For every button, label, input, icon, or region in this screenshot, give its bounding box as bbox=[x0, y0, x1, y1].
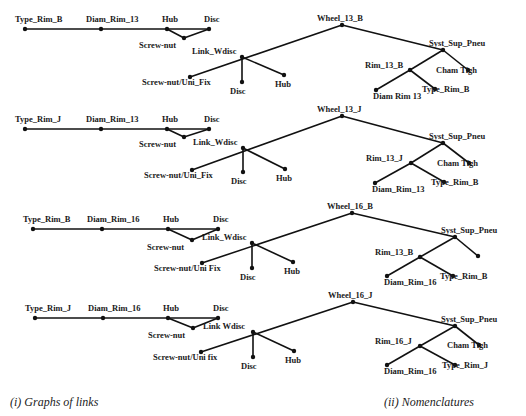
chain-label-hub: Hub bbox=[162, 14, 178, 24]
screw-nut-uni-fix-label: Screw-nut/Uni_Fix bbox=[142, 77, 212, 87]
nomenclature-node bbox=[340, 114, 344, 118]
nomenclature-node bbox=[409, 161, 413, 165]
chain-node bbox=[207, 27, 211, 31]
link-hub-edge bbox=[243, 148, 285, 169]
chain-label-type-rim: Type_Rim_J bbox=[25, 303, 72, 313]
link-node bbox=[251, 330, 255, 334]
nomenclature-node bbox=[340, 23, 344, 27]
chain-node bbox=[23, 127, 27, 131]
link-hub-edge bbox=[252, 243, 293, 262]
hub-label: Hub bbox=[284, 266, 300, 276]
caption-graphs-of-links: (i) Graphs of links bbox=[10, 395, 98, 410]
chain-node bbox=[101, 316, 105, 320]
screw-nut-uni-fix-label: Screw-nut/Uni fix bbox=[153, 352, 218, 362]
hub-node bbox=[292, 349, 296, 353]
link-hub-edge bbox=[242, 57, 284, 75]
link-label: Link_Wdisc bbox=[193, 137, 238, 147]
link-label: Link_Wdisc bbox=[192, 46, 237, 56]
link-node bbox=[250, 241, 254, 245]
screw-disc-edge bbox=[184, 129, 209, 137]
chain-node bbox=[100, 227, 104, 231]
chain-label-disc: Disc bbox=[213, 214, 229, 224]
hub-label: Hub bbox=[285, 355, 301, 365]
screw-nut-node bbox=[182, 135, 186, 139]
wheel-label: Wheel_13_J bbox=[317, 104, 362, 114]
chain-label-disc: Disc bbox=[204, 14, 220, 24]
link-node bbox=[240, 55, 244, 59]
link-hub-edge bbox=[253, 332, 294, 351]
chain-label-hub: Hub bbox=[163, 303, 179, 313]
hub-node bbox=[291, 260, 295, 264]
disc-node bbox=[240, 80, 244, 84]
nomenclature-node bbox=[408, 68, 412, 72]
hub-screw-edge bbox=[168, 318, 193, 328]
screw-nut-label: Screw-nut bbox=[148, 330, 185, 340]
chain-label-diam-rim: Diam_Rim_13 bbox=[86, 114, 138, 124]
screw-nut-label: Screw-nut bbox=[147, 242, 184, 252]
rim-label: Rim_13_B bbox=[365, 60, 404, 70]
hub-node bbox=[282, 73, 286, 77]
nomenclature-node bbox=[476, 254, 480, 258]
chain-label-type-rim: Type_Rim_B bbox=[15, 14, 63, 24]
nomenclature-node bbox=[453, 324, 457, 328]
wheel-label: Wheel_16_J bbox=[328, 290, 373, 300]
hub-screw-edge bbox=[167, 129, 184, 137]
wheel-syst-edge bbox=[342, 116, 443, 143]
screw-nut-node bbox=[182, 36, 186, 40]
nomenclature-node bbox=[418, 344, 422, 348]
type-rim-label: Type_Rim_B bbox=[440, 271, 488, 281]
disc-node bbox=[251, 355, 255, 359]
chain-node bbox=[99, 27, 103, 31]
diam-rim-label: Diam_Rim_16 bbox=[384, 277, 436, 287]
disc-label: Disc bbox=[230, 86, 246, 96]
chain-node bbox=[23, 27, 27, 31]
syst-sup-pneu-label: Syst_Sup_Pneu bbox=[441, 225, 497, 235]
nomenclature-node bbox=[441, 141, 445, 145]
rim-label: Rim_16_J bbox=[375, 336, 413, 346]
chain-node bbox=[216, 316, 220, 320]
chain-label-diam-rim: Diam_Rim_16 bbox=[87, 214, 139, 224]
wheel-syst-edge bbox=[353, 302, 455, 326]
chain-node bbox=[165, 127, 169, 131]
type-rim-label: Type_Rim_B bbox=[431, 177, 479, 187]
screw-nut-uni-fix-label: Screw-nut/Uni_Fix bbox=[144, 170, 214, 180]
links-and-nomenclatures-diagram: Type_Rim_BDiam_Rim_13HubDiscScrew-nutLin… bbox=[0, 0, 526, 416]
hub-node bbox=[283, 167, 287, 171]
chain-label-disc: Disc bbox=[213, 303, 229, 313]
chain-label-type-rim: Type_Rim_J bbox=[15, 114, 62, 124]
cham-tigh-label: Cham Tigh bbox=[436, 65, 477, 75]
chain-node bbox=[216, 227, 220, 231]
wheel-label: Wheel_16_B bbox=[327, 201, 373, 211]
hub-screw-edge bbox=[167, 29, 184, 38]
chain-node bbox=[166, 316, 170, 320]
nomenclature-node bbox=[453, 235, 457, 239]
rim-diam-edge bbox=[387, 346, 420, 365]
rim-diam-edge bbox=[375, 163, 411, 183]
screw-nut-node bbox=[190, 238, 194, 242]
chain-label-hub: Hub bbox=[162, 114, 178, 124]
wheel-label: Wheel_13_B bbox=[317, 13, 363, 23]
screw-disc-edge bbox=[184, 29, 209, 38]
diam-rim-label: Diam Rim 13 bbox=[373, 91, 421, 101]
chain-label-disc: Disc bbox=[204, 114, 220, 124]
chain-node bbox=[31, 227, 35, 231]
link-label: Link_Wdisc bbox=[202, 232, 247, 242]
screw-nut-label: Screw-nut bbox=[139, 40, 176, 50]
hub-label: Hub bbox=[276, 173, 292, 183]
disc-label: Disc bbox=[231, 176, 247, 186]
screw-nut-uni-fix-label: Screw-nut/Uni Fix bbox=[154, 263, 221, 273]
screw-nut-node bbox=[191, 326, 195, 330]
disc-node bbox=[241, 170, 245, 174]
rim-diam-edge bbox=[387, 257, 420, 276]
chain-label-diam-rim: Diam_Rim_16 bbox=[88, 303, 140, 313]
rim-diam-edge bbox=[376, 70, 410, 90]
chain-node bbox=[165, 27, 169, 31]
nomenclature-node bbox=[441, 48, 445, 52]
screw-nut-label: Screw-nut bbox=[139, 139, 176, 149]
syst-sup-pneu-label: Syst_Sup_Pneu bbox=[441, 314, 497, 324]
hub-label: Hub bbox=[275, 79, 291, 89]
syst-rim-edge bbox=[420, 237, 455, 257]
disc-label: Disc bbox=[240, 272, 256, 282]
type-rim-label: Type_Rim_B bbox=[422, 84, 470, 94]
link-label: Link Wdisc bbox=[203, 321, 245, 331]
